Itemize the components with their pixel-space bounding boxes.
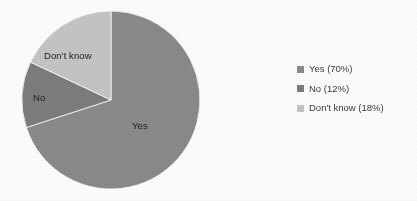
legend-item-dont-know[interactable]: Don't know (18%) xyxy=(297,98,413,118)
pie-chart-plot-area: Don't know No Yes xyxy=(0,0,230,201)
legend-label-no: No (12%) xyxy=(309,84,349,94)
legend-label-dont-know: Don't know (18%) xyxy=(309,103,384,113)
pie-slices-group xyxy=(22,11,200,189)
pie-chart-screenshot: Don't know No Yes Yes (70%) No (12%) Don… xyxy=(0,0,417,201)
legend-swatch-dont-know-icon xyxy=(297,105,304,112)
pie-slice-label-dont-know: Don't know xyxy=(44,51,92,61)
legend-swatch-yes-icon xyxy=(297,66,304,73)
pie-slice-label-yes: Yes xyxy=(132,121,148,131)
legend-swatch-no-icon xyxy=(297,85,304,92)
legend-item-no[interactable]: No (12%) xyxy=(297,79,413,99)
pie-slice-label-no: No xyxy=(33,93,45,103)
legend-label-yes: Yes (70%) xyxy=(309,64,352,74)
chart-legend: Yes (70%) No (12%) Don't know (18%) xyxy=(297,59,413,118)
legend-item-yes[interactable]: Yes (70%) xyxy=(297,59,413,79)
